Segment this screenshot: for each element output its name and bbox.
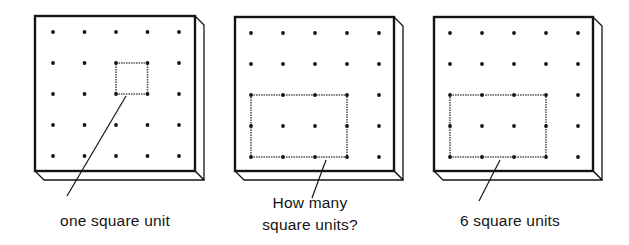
peg-dot (480, 155, 484, 159)
peg-dot (146, 61, 150, 65)
board-bottom-face (35, 171, 204, 180)
peg-dot (83, 30, 87, 34)
peg-dot (512, 62, 516, 66)
peg-dot (377, 93, 381, 97)
board-side-face (394, 17, 403, 180)
peg-dot (377, 31, 381, 35)
peg-dot (51, 123, 55, 127)
peg-dot (377, 155, 381, 159)
peg-dot (448, 124, 452, 128)
peg-dot (114, 123, 118, 127)
peg-dot (83, 61, 87, 65)
peg-dot (448, 31, 452, 35)
peg-dot (177, 123, 181, 127)
peg-dot (177, 30, 181, 34)
peg-dot (512, 93, 516, 97)
peg-dot (146, 154, 150, 158)
peg-dot (114, 154, 118, 158)
peg-dot (51, 61, 55, 65)
peg-dot (114, 30, 118, 34)
peg-dot (281, 62, 285, 66)
peg-dot (83, 123, 87, 127)
peg-dot (576, 31, 580, 35)
peg-dot (249, 124, 253, 128)
peg-dot (544, 124, 548, 128)
peg-dot (544, 155, 548, 159)
peg-dot (512, 31, 516, 35)
peg-dot (281, 93, 285, 97)
peg-dot (51, 30, 55, 34)
peg-dot (51, 92, 55, 96)
peg-dot (146, 123, 150, 127)
caption-text: 6 square units (410, 210, 610, 232)
peg-dot (377, 62, 381, 66)
peg-dot (345, 124, 349, 128)
geoboard-one-square-unit (35, 16, 204, 196)
peg-dot (576, 124, 580, 128)
geoboard-six-square-units (434, 17, 602, 201)
peg-dot (313, 93, 317, 97)
peg-dot (281, 124, 285, 128)
geoboard-figure: one square unit How many square units? 6… (0, 0, 629, 245)
peg-dot (146, 30, 150, 34)
peg-dot (345, 155, 349, 159)
peg-dot (512, 155, 516, 159)
peg-dot (544, 62, 548, 66)
peg-dot (480, 124, 484, 128)
peg-dot (249, 93, 253, 97)
peg-dot (544, 31, 548, 35)
peg-dot (249, 62, 253, 66)
peg-dot (345, 62, 349, 66)
peg-dot (448, 155, 452, 159)
peg-dot (281, 155, 285, 159)
peg-dot (249, 155, 253, 159)
peg-dot (480, 31, 484, 35)
peg-dot (544, 93, 548, 97)
peg-dot (313, 62, 317, 66)
peg-dot (512, 124, 516, 128)
peg-dot (249, 31, 253, 35)
peg-dot (345, 31, 349, 35)
caption-text-line-1: How many (210, 192, 410, 214)
peg-dot (377, 124, 381, 128)
peg-dot (448, 62, 452, 66)
board-side-face (195, 16, 204, 180)
peg-dot (114, 92, 118, 96)
peg-dot (448, 93, 452, 97)
peg-dot (83, 154, 87, 158)
peg-dot (177, 61, 181, 65)
board-side-face (593, 17, 602, 180)
peg-dot (345, 93, 349, 97)
peg-dot (576, 93, 580, 97)
peg-dot (177, 154, 181, 158)
board-bottom-face (434, 171, 602, 180)
peg-dot (313, 124, 317, 128)
caption-how-many-square-units: How many square units? (210, 192, 410, 236)
geoboard-how-many-square-units (235, 17, 403, 198)
caption-text: one square unit (15, 210, 215, 232)
peg-dot (313, 31, 317, 35)
peg-dot (177, 92, 181, 96)
peg-dot (51, 154, 55, 158)
peg-dot (146, 92, 150, 96)
peg-dot (281, 31, 285, 35)
peg-dot (313, 155, 317, 159)
caption-text-line-2: square units? (210, 214, 410, 236)
peg-dot (114, 61, 118, 65)
peg-dot (480, 62, 484, 66)
peg-dot (480, 93, 484, 97)
peg-dot (576, 62, 580, 66)
caption-one-square-unit: one square unit (15, 210, 215, 232)
peg-dot (576, 155, 580, 159)
caption-six-square-units: 6 square units (410, 210, 610, 232)
peg-dot (83, 92, 87, 96)
